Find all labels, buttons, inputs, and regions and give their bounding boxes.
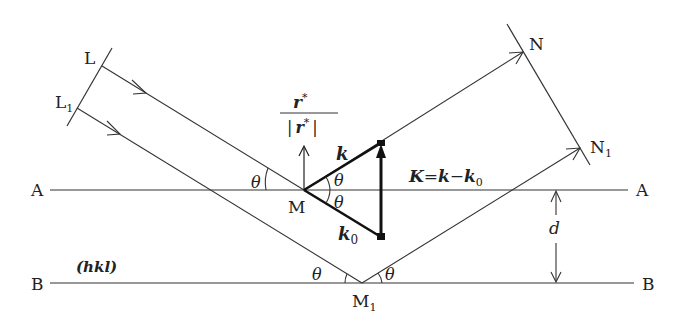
label-B-right: B <box>642 274 655 294</box>
label-k0: k0 <box>338 223 358 247</box>
theta-label-left-upper: θ <box>251 173 261 192</box>
label-A-right: A <box>635 180 649 200</box>
normal-numerator: r* <box>293 91 308 112</box>
theta-arc-k0 <box>326 190 330 203</box>
label-N1: N1 <box>590 137 612 160</box>
theta-label-right-lower: θ <box>385 265 395 284</box>
label-M1: M1 <box>352 291 376 314</box>
theta-arc-left-upper <box>265 168 268 190</box>
label-hkl: (hkl) <box>76 258 117 276</box>
reflected-wavefront <box>507 24 590 165</box>
bragg-diagram: L L1 N N1 A A B B (hkl) d M M1 θ θ θ θ θ… <box>0 0 684 329</box>
label-k: k <box>336 143 348 164</box>
theta-arc-k <box>326 177 330 190</box>
theta-arc-left-lower <box>345 274 347 283</box>
scattering-equation: K=k−k0 <box>408 166 483 189</box>
theta-label-k0: θ <box>334 193 344 212</box>
normal-denominator: |r*| <box>287 116 318 137</box>
incident-ray-upper <box>102 66 304 190</box>
label-B-left: B <box>31 274 44 294</box>
theta-arc-right-lower <box>378 273 382 283</box>
theta-label-k: θ <box>334 171 344 190</box>
label-N: N <box>529 34 544 54</box>
label-L1: L1 <box>55 92 73 115</box>
theta-label-left-lower: θ <box>312 265 322 284</box>
label-d: d <box>549 218 560 238</box>
label-A-left: A <box>30 180 44 200</box>
label-L: L <box>84 48 95 68</box>
label-M: M <box>288 197 305 217</box>
